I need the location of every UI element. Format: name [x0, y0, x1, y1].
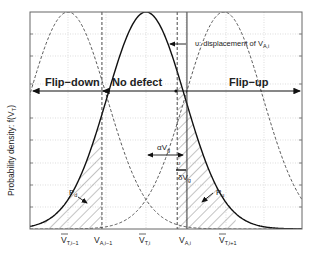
curves — [0, 12, 317, 229]
x-tick-label: VA,i−1 — [94, 235, 112, 246]
shaded-regions — [45, 71, 236, 229]
x-tick-labels: VT,i−1VA,i−1VT,iVA,iVT,i+1 — [61, 234, 236, 246]
figure: Probability density: f(VT) Flip−down No … — [0, 0, 317, 255]
flip-up-label: Flip−up — [229, 76, 269, 88]
y-axis-label: Probability density: f(VT) — [6, 105, 17, 196]
x-tick-label: VA,i — [179, 235, 191, 246]
no-defect-label: No defect — [112, 76, 162, 88]
alpha-vg-label: αVg — [157, 143, 170, 153]
p-u-label: Pu — [216, 188, 224, 198]
x-tick-label: VT,i−1 — [61, 235, 78, 246]
vertical-markers — [102, 12, 187, 229]
x-tick-label: VT,i — [139, 235, 150, 246]
boundary-dot — [174, 89, 177, 92]
shaded-region-p-d — [45, 116, 102, 229]
x-tick-label: VT,i+1 — [219, 235, 236, 246]
upsilon-label: υ — [177, 160, 180, 166]
displacement-label: υ: displacement of VA,i — [195, 39, 269, 49]
curve-2 — [0, 12, 317, 229]
flip-down-label: Flip−down — [45, 76, 100, 88]
